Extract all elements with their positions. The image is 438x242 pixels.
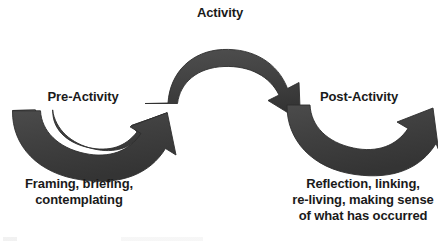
stage-description-post-activity: Reflection, linking, re-living, making s…: [288, 176, 438, 224]
stage-title-activity: Activity: [1, 5, 438, 21]
arrow-post-onward-icon: [287, 105, 438, 176]
scan-edge-artifact: [3, 237, 203, 241]
stage-title-pre-activity: Pre-Activity: [22, 89, 144, 105]
activity-cycle-diagram: Activity Pre-Activity Post-Activity Fram…: [0, 0, 438, 242]
arrow-pre-to-activity-icon: [12, 110, 176, 181]
stage-description-pre-activity: Framing, briefing, contemplating: [4, 176, 154, 208]
arrow-activity-arch-icon: [145, 49, 301, 120]
stage-title-post-activity: Post-Activity: [298, 89, 420, 105]
